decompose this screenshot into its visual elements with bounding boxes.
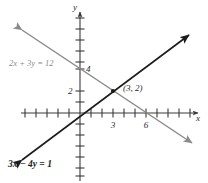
line-3x-minus-4y-equals-1 [22,35,189,160]
y-tick-label-2: 2 [68,87,78,96]
graph-canvas [0,0,208,183]
x-axis [21,109,198,118]
y-axis [76,12,85,181]
x-axis-label: x [196,114,200,123]
equation-label-line-1: 2x + 3y = 12 [9,59,54,68]
coordinate-graph-figure: 2x + 3y = 12 3x − 4y = 1 (3, 2) y x 3 6 … [0,0,208,183]
intersection-point-marker [111,89,115,93]
equation-label-line-2: 3x − 4y = 1 [8,160,52,170]
x-tick-label-6: 6 [140,121,152,130]
x-tick-label-3: 3 [107,121,119,130]
y-axis-label: y [73,3,77,12]
intersection-point-label: (3, 2) [123,84,143,93]
y-tick-label-4: 4 [86,65,96,74]
